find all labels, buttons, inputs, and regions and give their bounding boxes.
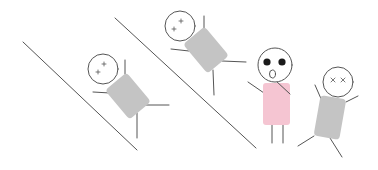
open-mouth-icon: [270, 70, 276, 78]
head: [165, 11, 195, 41]
eye-right-icon: [278, 58, 285, 65]
illustration-scene: Stick figures sliding down two slopes wh…: [0, 0, 378, 170]
scene-canvas: [0, 0, 378, 170]
waving-figure-right: [298, 67, 358, 157]
body: [314, 95, 347, 140]
eye-left-icon: [263, 58, 270, 65]
body: [263, 83, 290, 125]
sliding-figure-lower: [88, 54, 169, 138]
head: [88, 54, 118, 84]
head: [323, 67, 353, 97]
surprised-pink-figure: [248, 48, 292, 143]
sliding-figure-upper: [165, 11, 246, 95]
